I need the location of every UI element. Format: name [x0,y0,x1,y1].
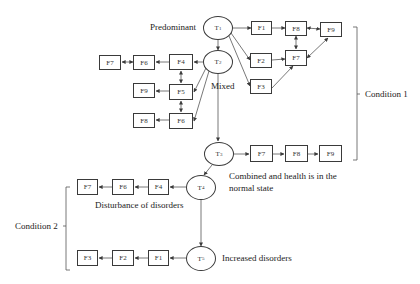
node-t4-sub: 4 [202,185,205,190]
box-t1-f7: F7 [285,50,307,66]
node-t5-sub: 5 [202,256,205,261]
node-t3-sub: 3 [220,152,223,157]
box-t3-f8: F8 [285,145,308,162]
label-predominant: Predominant [150,22,196,33]
label-condition1: Condition 1 [365,89,408,100]
box-t2-f8: F8 [133,113,155,128]
box-t5-f1: F1 [148,250,169,266]
box-t5-f2: F2 [112,250,134,266]
box-t1-f2: F2 [250,53,272,68]
box-t2-f7: F7 [99,55,121,70]
node-t1: T1 [203,16,233,40]
box-t1-f9: F9 [320,22,342,37]
box-t4-f6: F6 [112,179,134,195]
box-t3-f7: F7 [250,145,273,162]
connector-layer [0,0,420,284]
node-t4: T4 [186,175,216,200]
box-t3-f9: F9 [319,145,342,162]
label-disturbance: Disturbance of disorders [95,200,183,211]
box-t1-f3: F3 [250,79,272,94]
label-mixed: Mixed [211,81,235,92]
box-t1-f1: F1 [251,21,272,35]
box-t1-f8: F8 [285,21,307,36]
node-t1-sub: 1 [219,26,222,31]
label-increased: Increased disorders [222,253,292,264]
node-t2: T2 [203,50,233,74]
label-combined-2: normal state [229,183,273,194]
box-t4-f4: F4 [148,179,169,195]
box-t5-f3: F3 [77,250,98,266]
box-t2-f6-top: F6 [133,55,155,70]
condition1-bracket [353,27,357,160]
node-t3: T3 [204,142,234,166]
box-t2-f6: F6 [169,113,193,129]
box-t2-f4: F4 [169,54,193,70]
label-combined-1: Combined and health is in the [229,171,337,182]
node-t2-sub: 2 [219,60,222,65]
box-t2-f9: F9 [133,83,155,98]
box-t2-f5: F5 [169,84,193,100]
condition2-bracket [66,187,70,270]
node-t5: T5 [186,246,216,271]
label-condition2: Condition 2 [15,221,58,232]
box-t4-f7: F7 [77,179,98,195]
